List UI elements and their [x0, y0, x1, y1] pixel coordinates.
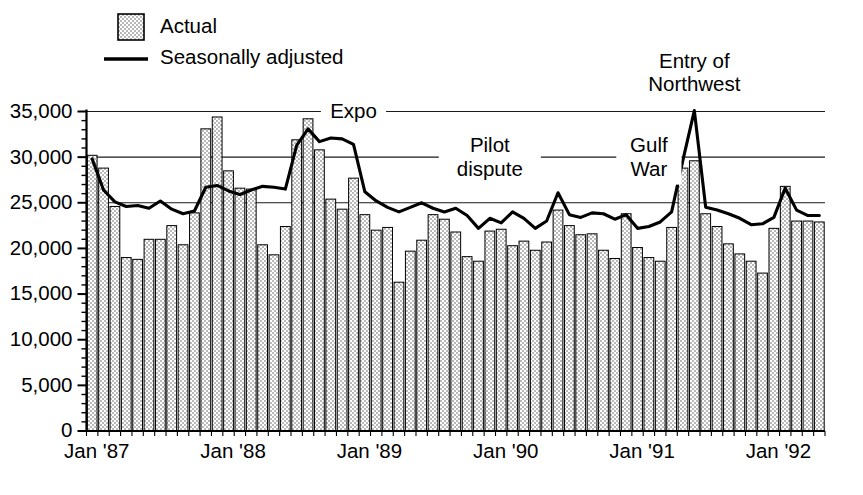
annotation-label: Entry of: [659, 49, 730, 72]
bar: [508, 246, 518, 431]
y-axis-tick-label: 20,000: [10, 236, 73, 259]
y-axis-tick-label: 30,000: [10, 145, 73, 168]
y-axis-tick-label: 35,000: [10, 99, 73, 122]
bar: [599, 250, 609, 431]
annotation-label: Expo: [330, 99, 377, 122]
bar: [360, 215, 370, 431]
bar: [383, 227, 393, 431]
bar: [712, 227, 722, 431]
bar: [326, 199, 336, 431]
bar: [689, 161, 699, 431]
bar: [780, 186, 790, 431]
bar: [474, 261, 484, 431]
bar: [167, 226, 177, 431]
bar: [133, 259, 143, 431]
bar: [246, 189, 256, 431]
annotation-label: Northwest: [648, 72, 741, 95]
bar: [621, 214, 631, 431]
legend-seasonal-label: Seasonally adjusted: [160, 45, 344, 68]
x-axis-tick-label: Jan '89: [337, 439, 402, 462]
bar: [144, 239, 154, 431]
bar: [405, 251, 415, 431]
bar: [803, 221, 813, 431]
bar: [212, 117, 222, 431]
bar: [371, 230, 381, 431]
bar: [758, 273, 768, 431]
bar: [269, 255, 279, 431]
bar: [587, 234, 597, 431]
bar: [678, 168, 688, 431]
x-axis-tick-label: Jan '88: [200, 439, 265, 462]
bar: [655, 261, 665, 431]
bar: [349, 178, 359, 431]
x-axis-tick-label: Jan '92: [746, 439, 811, 462]
bar: [792, 221, 802, 431]
y-axis-tick-label: 25,000: [10, 190, 73, 213]
y-axis-tick-label: 15,000: [10, 281, 73, 304]
bar: [633, 248, 643, 431]
bar: [610, 258, 620, 431]
bar: [178, 245, 188, 431]
bar: [303, 119, 313, 431]
bar: [462, 257, 472, 431]
annotation-label: War: [630, 157, 667, 180]
bar: [87, 155, 97, 431]
bar: [644, 258, 654, 431]
y-axis-tick-label: 10,000: [10, 327, 73, 350]
y-axis-tick-label: 0: [61, 418, 72, 441]
bar: [496, 229, 506, 431]
bar: [451, 232, 461, 431]
annotation-label: dispute: [457, 157, 523, 180]
bar: [337, 209, 347, 431]
chart-legend: Actual Seasonally adjusted: [104, 14, 344, 68]
bar: [428, 215, 438, 431]
bar: [190, 213, 200, 431]
bar: [701, 214, 711, 431]
bar: [258, 245, 268, 431]
bar: [440, 219, 450, 431]
bar: [224, 171, 234, 431]
bar: [564, 226, 574, 431]
annotation-label: Pilot: [470, 133, 510, 156]
bar: [280, 227, 290, 431]
bar: [542, 242, 552, 431]
bar: [394, 282, 404, 431]
bar: [110, 206, 120, 431]
legend-actual-swatch: [118, 14, 144, 40]
bar: [315, 150, 325, 431]
bar: [746, 261, 756, 431]
bar: [201, 129, 211, 431]
legend-actual-label: Actual: [160, 14, 217, 37]
bar: [667, 227, 677, 431]
chart-x-axis-labels: Jan '87Jan '88Jan '89Jan '90Jan '91Jan '…: [64, 439, 811, 462]
annotation-label: Gulf: [630, 133, 668, 156]
bar: [292, 140, 302, 431]
bar: [99, 168, 109, 431]
bar: [121, 258, 131, 431]
bar: [530, 250, 540, 431]
bar: [814, 222, 824, 431]
x-axis-tick-label: Jan '87: [64, 439, 129, 462]
x-axis-tick-label: Jan '91: [609, 439, 674, 462]
y-axis-tick-label: 5,000: [21, 373, 72, 396]
chart-container: Actual Seasonally adjusted 05,00010,0001…: [0, 0, 863, 495]
chart-svg: Actual Seasonally adjusted 05,00010,0001…: [0, 0, 863, 495]
bar: [235, 188, 245, 431]
bar: [485, 231, 495, 431]
chart-annotations: ExpoPilotdisputeGulfWarEntry ofNorthwest: [321, 49, 741, 185]
bar: [724, 244, 734, 431]
bar: [553, 210, 563, 431]
bar: [576, 235, 586, 431]
bar: [519, 241, 529, 431]
bar: [735, 254, 745, 431]
bar: [769, 228, 779, 431]
bar: [417, 240, 427, 431]
bar: [155, 239, 165, 431]
x-axis-tick-label: Jan '90: [473, 439, 538, 462]
chart-y-axis-labels: 05,00010,00015,00020,00025,00030,00035,0…: [10, 99, 73, 442]
